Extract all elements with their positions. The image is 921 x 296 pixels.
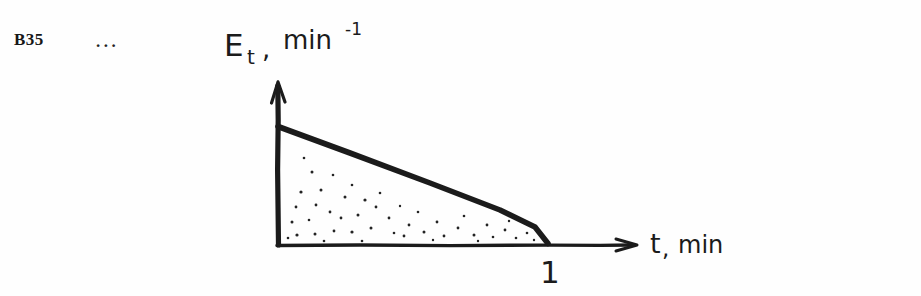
x-axis-label-symbol: t xyxy=(650,228,661,259)
rtd-chart-figure: E t , min -1 xyxy=(0,0,921,296)
y-axis xyxy=(272,82,286,245)
x-axis xyxy=(277,239,637,251)
figure-page: B35 ... E t , min -1 xyxy=(0,0,921,296)
y-axis-label-unit: min xyxy=(283,25,332,55)
y-axis-line xyxy=(278,86,279,245)
x-axis-label-separator: , xyxy=(662,235,669,261)
x-axis-tick-label-1: 1 xyxy=(540,254,560,290)
y-axis-label-separator: , xyxy=(262,34,270,64)
x-axis-label-unit: min xyxy=(678,231,723,259)
x-axis-line xyxy=(277,245,632,246)
curve-line xyxy=(278,127,548,244)
x-axis-label: t , min xyxy=(650,228,723,261)
rtd-curve xyxy=(278,127,548,244)
y-axis-label-unit-exponent: -1 xyxy=(345,19,362,39)
y-axis-label-subscript: t xyxy=(247,45,255,69)
y-axis-label: E t , min -1 xyxy=(224,19,362,69)
y-axis-label-symbol: E xyxy=(224,27,244,63)
curve-stipple-fill xyxy=(287,157,536,243)
